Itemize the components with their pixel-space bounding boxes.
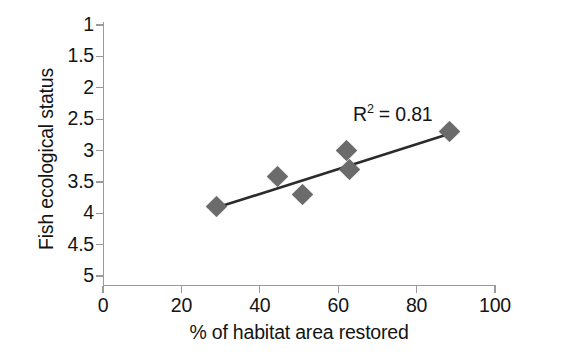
x-axis-line <box>103 285 496 286</box>
x-axis-title: % of habitat area restored <box>103 322 495 343</box>
x-tick-label: 60 <box>308 296 368 316</box>
r-squared-annotation: R2 = 0.81 <box>353 99 432 125</box>
y-tick-label: 3.5 <box>26 172 94 192</box>
y-tick-label: 2 <box>26 78 94 98</box>
y-tick-mark <box>96 275 103 276</box>
x-tick-label: 80 <box>387 296 447 316</box>
r-squared-exponent: 2 <box>367 102 374 116</box>
x-tick-mark <box>181 286 182 293</box>
data-point-marker <box>292 184 313 205</box>
y-tick-label: 4.5 <box>26 235 94 255</box>
x-tick-label: 100 <box>465 296 525 316</box>
y-tick-mark <box>96 87 103 88</box>
y-tick-label: 1.5 <box>26 46 94 66</box>
chart-figure: Fish ecological status 11.522.533.544.55… <box>0 0 579 358</box>
y-tick-label: 3 <box>26 141 94 161</box>
y-tick-mark <box>96 213 103 214</box>
y-tick-label: 1 <box>26 15 94 35</box>
trendline <box>103 25 495 276</box>
x-tick-mark <box>494 286 495 293</box>
r-squared-letter: R <box>353 103 367 125</box>
y-tick-label: 5 <box>26 266 94 286</box>
plot-area <box>103 25 495 276</box>
data-point-marker <box>335 140 356 161</box>
data-point-marker <box>439 121 460 142</box>
y-tick-label: 4 <box>26 203 94 223</box>
y-tick-mark <box>96 181 103 182</box>
y-tick-mark <box>96 24 103 25</box>
data-point-marker <box>206 196 227 217</box>
x-tick-mark <box>259 286 260 293</box>
y-tick-label: 2.5 <box>26 109 94 129</box>
data-point-marker <box>339 159 360 180</box>
x-tick-mark <box>416 286 417 293</box>
y-tick-mark <box>96 119 103 120</box>
x-tick-mark <box>102 286 103 293</box>
x-tick-label: 40 <box>230 296 290 316</box>
r-squared-value: = 0.81 <box>374 103 433 125</box>
x-tick-label: 0 <box>73 296 133 316</box>
x-tick-mark <box>338 286 339 293</box>
y-tick-mark <box>96 56 103 57</box>
y-tick-mark <box>96 150 103 151</box>
x-tick-label: 20 <box>151 296 211 316</box>
data-point-marker <box>267 166 288 187</box>
y-tick-mark <box>96 244 103 245</box>
